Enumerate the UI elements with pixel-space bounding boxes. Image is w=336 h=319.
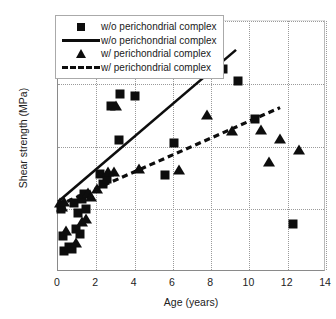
data-point-triangle <box>293 145 305 155</box>
data-point-square <box>116 89 125 98</box>
y-axis-title: Shear strength (MPa) <box>17 43 29 233</box>
data-point-triangle <box>255 125 267 135</box>
data-point-triangle <box>173 165 185 175</box>
data-point-triangle <box>274 133 286 143</box>
data-point-triangle <box>60 225 72 235</box>
data-point-triangle <box>70 238 82 248</box>
x-tick-label: 12 <box>272 276 302 288</box>
data-point-square <box>169 138 178 147</box>
x-tick-label: 4 <box>119 276 149 288</box>
square-marker-icon <box>61 23 101 31</box>
data-point-triangle <box>133 164 145 174</box>
x-tick-label: 2 <box>80 276 110 288</box>
legend-row: w/o perichondrial complex <box>61 20 217 34</box>
data-point-triangle <box>91 184 103 194</box>
x-tick-label: 8 <box>195 276 225 288</box>
legend-row: w/o perichondrial complex <box>61 34 217 48</box>
x-tick-label: 0 <box>42 276 72 288</box>
triangle-marker-icon <box>61 49 101 58</box>
legend-label: w/ perichondrial complex <box>101 61 211 75</box>
grid-line-vertical <box>326 21 327 270</box>
legend: w/o perichondrial complex w/o perichondr… <box>55 15 224 79</box>
legend-label: w/o perichondrial complex <box>101 20 217 34</box>
dashed-line-icon <box>61 66 101 69</box>
legend-label: w/ perichondrial complex <box>101 47 211 61</box>
data-point-triangle <box>80 214 92 224</box>
legend-row: w/ perichondrial complex <box>61 61 217 75</box>
data-point-square <box>233 77 242 86</box>
data-point-square <box>161 171 170 180</box>
x-tick-label: 14 <box>310 276 336 288</box>
data-point-square <box>81 205 90 214</box>
data-point-square <box>115 136 124 145</box>
x-axis-title: Age (years) <box>57 296 325 308</box>
legend-label: w/o perichondrial complex <box>101 34 217 48</box>
x-tick-label: 10 <box>233 276 263 288</box>
data-point-square <box>289 220 298 229</box>
data-point-square <box>130 92 139 101</box>
solid-line-icon <box>61 39 101 42</box>
data-point-triangle <box>58 196 70 206</box>
legend-row: w/ perichondrial complex <box>61 47 217 61</box>
data-point-triangle <box>108 166 120 176</box>
data-point-square <box>251 114 260 123</box>
x-tick-label: 6 <box>157 276 187 288</box>
data-point-triangle <box>263 156 275 166</box>
data-point-triangle <box>110 101 122 111</box>
data-point-triangle <box>226 126 238 136</box>
data-point-triangle <box>201 110 213 120</box>
